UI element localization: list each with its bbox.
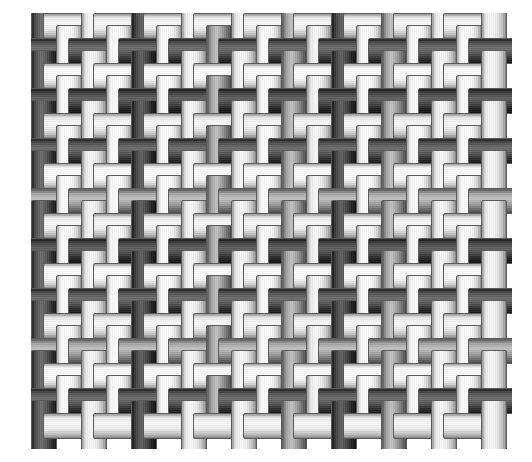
warp-thread-segment	[481, 400, 507, 449]
weave-figure	[0, 0, 532, 462]
weave-grid	[31, 13, 512, 449]
